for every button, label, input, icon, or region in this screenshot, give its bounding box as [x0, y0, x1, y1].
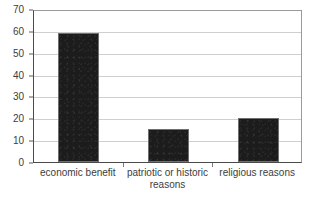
y-axis-tick-label: 10 [13, 136, 24, 146]
y-axis-tick-label: 70 [13, 5, 24, 15]
plot-area [33, 10, 302, 163]
y-axis-tick-label: 20 [13, 114, 24, 124]
y-axis-tick-label: 60 [13, 27, 24, 37]
x-axis-category-labels: economic benefitpatriotic or historic re… [33, 167, 302, 200]
bar-chart: 010203040506070 economic benefitpatrioti… [0, 0, 335, 200]
x-axis-category-label: religious reasons [212, 167, 302, 179]
bar [148, 129, 189, 162]
y-axis: 010203040506070 [0, 0, 33, 173]
bar [238, 118, 279, 162]
y-axis-tick-label: 0 [18, 158, 24, 168]
y-axis-tick-label: 50 [13, 49, 24, 59]
x-axis-category-label: economic benefit [33, 167, 123, 179]
y-axis-tick-label: 30 [13, 92, 24, 102]
x-axis-category-label: patriotic or historic reasons [123, 167, 213, 190]
bar [58, 33, 99, 162]
y-axis-tick-label: 40 [13, 71, 24, 81]
